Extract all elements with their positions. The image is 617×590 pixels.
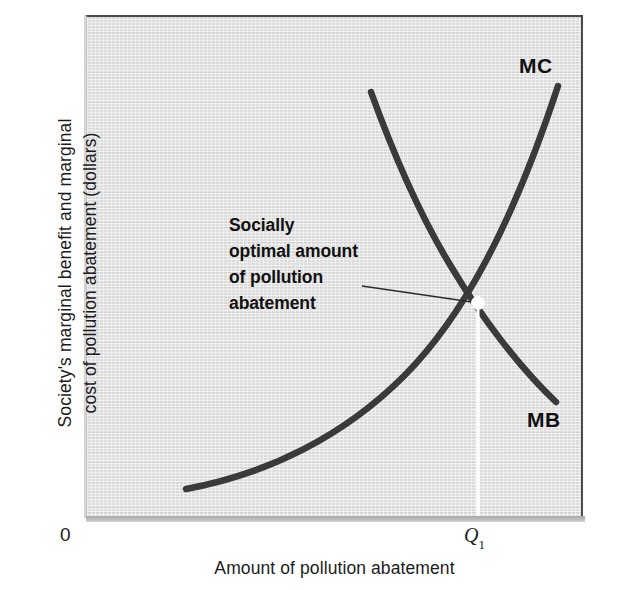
x-axis-label: Amount of pollution abatement [86, 558, 583, 579]
socially-optimal-annotation: Socially optimal amount of pollution aba… [229, 212, 379, 316]
annotation-line-3: of pollution [229, 264, 379, 290]
annotation-line-1: Socially [229, 212, 379, 238]
panel-bottom-shadow [86, 516, 585, 522]
origin-label: 0 [60, 524, 71, 546]
y-axis-label: Society's marginal benefit and marginal … [53, 38, 103, 508]
pollution-abatement-figure: MC MB Socially optimal amount of polluti… [0, 0, 617, 590]
annotation-line-4: abatement [229, 290, 379, 316]
mb-curve-label: MB [527, 408, 560, 432]
q-symbol: Q [464, 524, 478, 546]
x-axis-tick-q1: Q1 [464, 524, 485, 551]
q-subscript: 1 [478, 537, 485, 552]
y-axis-label-line-1: Society's marginal benefit and marginal [55, 119, 75, 428]
annotation-line-2: optimal amount [229, 238, 379, 264]
y-axis-label-line-2: cost of pollution abatement (dollars) [80, 133, 100, 414]
mc-curve-label: MC [519, 54, 552, 78]
